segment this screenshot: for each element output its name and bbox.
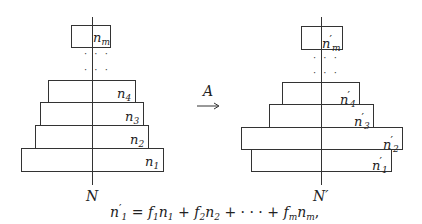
left-label-nm: nm <box>93 31 110 49</box>
right-ellipsis-2: · · · <box>313 69 339 77</box>
map-label: A <box>203 83 213 99</box>
left-box-n1 <box>21 148 164 172</box>
left-ellipsis-2: · · · <box>84 66 110 74</box>
equation: n′1 = f1n1 + f2n2 + · · · + fmnm, <box>110 202 319 222</box>
right-box-n2 <box>241 127 403 150</box>
left-axis-label: N <box>86 188 98 204</box>
right-box-n1 <box>251 149 392 172</box>
right-ellipsis-1: · · · <box>313 54 339 62</box>
left-label-n1: n1 <box>145 155 159 173</box>
map-arrow-icon <box>197 102 221 110</box>
right-label-n1: n′1 <box>372 155 388 177</box>
left-ellipsis-1: · · · <box>84 50 110 58</box>
